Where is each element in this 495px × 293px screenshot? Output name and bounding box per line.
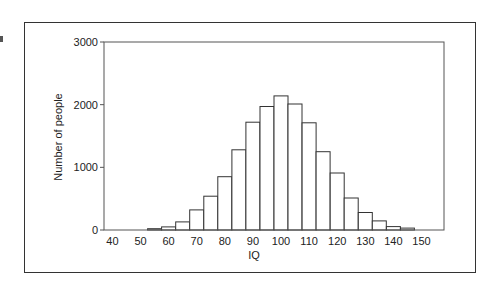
x-tick-label: 60 [163, 235, 175, 247]
histogram-bar [330, 173, 344, 230]
x-tick-label: 90 [247, 235, 259, 247]
x-tick-label: 80 [219, 235, 231, 247]
histogram-bar [344, 198, 358, 230]
x-tick-label: 100 [272, 235, 290, 247]
y-tick-label: 0 [92, 224, 98, 236]
x-tick-label: 70 [191, 235, 203, 247]
histogram-bar [386, 227, 400, 230]
y-tick-label: 3000 [74, 36, 98, 48]
histogram-bar [372, 221, 386, 230]
y-axis: 0100020003000 [74, 36, 104, 236]
histogram-bar [316, 152, 330, 230]
histogram-bar [190, 210, 204, 230]
x-tick-label: 140 [384, 235, 402, 247]
histogram-bar [204, 196, 218, 230]
histogram-bar [288, 104, 302, 230]
histogram-bar [218, 177, 232, 230]
histogram-bar [260, 107, 274, 231]
x-tick-label: 120 [328, 235, 346, 247]
x-tick-label: 110 [300, 235, 318, 247]
x-tick-label: 50 [134, 235, 146, 247]
histogram-bar [246, 122, 260, 230]
x-tick-label: 40 [106, 235, 118, 247]
y-axis-title: Number of people [52, 93, 64, 180]
histogram-bar [302, 123, 316, 230]
histogram-bars [148, 96, 415, 230]
x-tick-label: 150 [412, 235, 430, 247]
x-axis-title: IQ [248, 249, 260, 261]
histogram-bar [232, 150, 246, 230]
x-tick-label: 130 [356, 235, 374, 247]
histogram-bar [358, 213, 372, 231]
y-tick-label: 1000 [74, 161, 98, 173]
y-tick-label: 2000 [74, 99, 98, 111]
histogram-bar [274, 96, 288, 230]
histogram-chart: 0100020003000 40506070809010011012013014… [0, 0, 495, 293]
histogram-bar [176, 222, 190, 230]
x-axis: 405060708090100110120130140150 [106, 235, 430, 247]
